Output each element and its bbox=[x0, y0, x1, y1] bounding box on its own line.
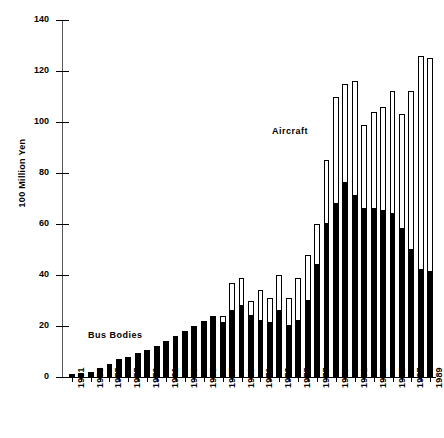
bar-group bbox=[342, 20, 348, 377]
bar-segment-bus-bodies bbox=[182, 331, 188, 377]
bar-segment-aircraft bbox=[418, 56, 424, 270]
bar-segment-bus-bodies bbox=[390, 214, 396, 377]
bar-group bbox=[248, 20, 254, 377]
bar-segment-aircraft bbox=[305, 255, 311, 301]
y-tick-label: 40 bbox=[39, 269, 49, 280]
bar-segment-bus-bodies bbox=[107, 364, 113, 377]
bar-segment-bus-bodies bbox=[314, 265, 320, 377]
bar-segment-aircraft bbox=[239, 278, 245, 306]
y-tick-label: 0 bbox=[44, 371, 49, 382]
x-tick bbox=[204, 377, 205, 382]
bar-segment-bus-bodies bbox=[88, 372, 94, 377]
x-tick bbox=[411, 377, 412, 382]
x-tick bbox=[100, 377, 101, 382]
bar-group bbox=[97, 20, 103, 377]
x-tick bbox=[421, 377, 422, 382]
bar-group bbox=[380, 20, 386, 377]
x-tick bbox=[317, 377, 318, 382]
x-tick bbox=[194, 377, 195, 382]
x-tick bbox=[109, 377, 110, 382]
bar-segment-bus-bodies bbox=[210, 316, 216, 377]
bar-segment-bus-bodies bbox=[97, 368, 103, 377]
x-tick bbox=[213, 377, 214, 382]
x-tick bbox=[355, 377, 356, 382]
bar-group bbox=[258, 20, 264, 377]
bar-group bbox=[229, 20, 235, 377]
bar-segment-bus-bodies bbox=[286, 326, 292, 377]
series-label-aircraft: Aircraft bbox=[272, 126, 308, 136]
bar-group bbox=[173, 20, 179, 377]
x-tick bbox=[326, 377, 327, 382]
x-tick bbox=[223, 377, 224, 382]
bar-segment-aircraft bbox=[361, 125, 367, 209]
bar-segment-aircraft bbox=[352, 81, 358, 196]
bar-segment-bus-bodies bbox=[173, 336, 179, 377]
bar-group bbox=[418, 20, 424, 377]
bar-group bbox=[69, 20, 75, 377]
bar-segment-bus-bodies bbox=[163, 341, 169, 377]
bar-segment-bus-bodies bbox=[248, 316, 254, 377]
bar-group bbox=[305, 20, 311, 377]
y-tick: 20 bbox=[56, 326, 69, 327]
bar-segment-bus-bodies bbox=[324, 224, 330, 377]
bar-group bbox=[201, 20, 207, 377]
x-tick bbox=[157, 377, 158, 382]
y-tick: 100 bbox=[56, 122, 69, 123]
x-tick bbox=[72, 377, 73, 382]
bar-group bbox=[314, 20, 320, 377]
y-tick-label: 100 bbox=[34, 116, 49, 127]
bar-group bbox=[276, 20, 282, 377]
x-tick bbox=[185, 377, 186, 382]
bar-segment-aircraft bbox=[286, 298, 292, 326]
bar-segment-bus-bodies bbox=[135, 353, 141, 377]
bar-segment-bus-bodies bbox=[361, 209, 367, 377]
bar-segment-bus-bodies bbox=[258, 321, 264, 377]
bar-segment-aircraft bbox=[276, 275, 282, 311]
bar-segment-bus-bodies bbox=[69, 374, 75, 377]
x-tick bbox=[147, 377, 148, 382]
bar-group bbox=[154, 20, 160, 377]
bar-segment-bus-bodies bbox=[418, 270, 424, 377]
bar-group bbox=[352, 20, 358, 377]
plot-area: 020406080100120140 195119531955195719591… bbox=[62, 20, 436, 377]
bar-group bbox=[107, 20, 113, 377]
x-tick bbox=[242, 377, 243, 382]
bar-segment-bus-bodies bbox=[144, 350, 150, 377]
bar-segment-bus-bodies bbox=[191, 326, 197, 377]
bar-group bbox=[135, 20, 141, 377]
x-tick bbox=[260, 377, 261, 382]
x-tick-label: 1989 bbox=[434, 367, 444, 388]
bar-segment-aircraft bbox=[342, 84, 348, 183]
bar-group bbox=[324, 20, 330, 377]
bar-group bbox=[361, 20, 367, 377]
x-tick bbox=[279, 377, 280, 382]
bar-group bbox=[191, 20, 197, 377]
bar-segment-aircraft bbox=[258, 290, 264, 321]
y-tick: 120 bbox=[56, 71, 69, 72]
x-tick bbox=[232, 377, 233, 382]
x-tick bbox=[374, 377, 375, 382]
bar-group bbox=[220, 20, 226, 377]
x-tick bbox=[393, 377, 394, 382]
x-tick bbox=[251, 377, 252, 382]
y-tick-label: 60 bbox=[39, 218, 49, 229]
y-tick-label: 80 bbox=[39, 167, 49, 178]
bar-segment-bus-bodies bbox=[239, 306, 245, 377]
x-tick bbox=[383, 377, 384, 382]
x-tick bbox=[430, 377, 431, 382]
bar-segment-aircraft bbox=[229, 283, 235, 311]
bar-segment-bus-bodies bbox=[305, 301, 311, 378]
bar-segment-bus-bodies bbox=[371, 209, 377, 377]
bar-group bbox=[371, 20, 377, 377]
x-tick bbox=[289, 377, 290, 382]
x-tick bbox=[298, 377, 299, 382]
bar-segment-aircraft bbox=[371, 112, 377, 209]
bar-segment-bus-bodies bbox=[427, 272, 433, 377]
y-tick: 80 bbox=[56, 173, 69, 174]
bar-group bbox=[78, 20, 84, 377]
y-tick: 40 bbox=[56, 275, 69, 276]
x-tick bbox=[176, 377, 177, 382]
bar-group bbox=[390, 20, 396, 377]
y-tick: 140 bbox=[56, 20, 69, 21]
